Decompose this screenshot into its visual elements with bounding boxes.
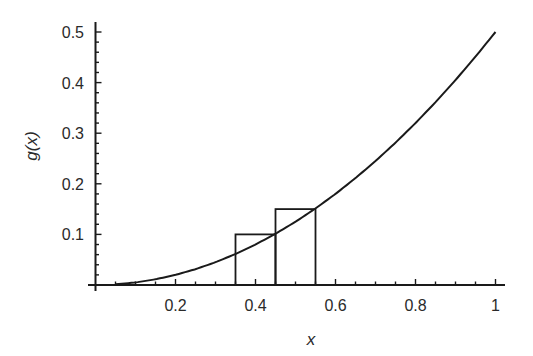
x-axis-label: x [306,330,316,349]
x-tick-label: 0.4 [244,297,266,314]
riemann-rectangles [236,209,316,285]
y-tick-label: 0.3 [62,125,84,142]
approximation-rectangle [276,209,316,285]
approximation-rectangle [236,234,276,285]
y-tick-label: 0.1 [62,226,84,243]
x-tick-label: 0.6 [324,297,346,314]
tick-labels: 0.20.40.60.810.10.20.30.40.5 [62,24,500,314]
x-tick-label: 0.2 [164,297,186,314]
chart-plot: 0.20.40.60.810.10.20.30.40.5 x g(x) [0,0,533,356]
y-tick-label: 0.5 [62,24,84,41]
x-tick-label: 1 [491,297,500,314]
y-tick-label: 0.2 [62,176,84,193]
y-tick-label: 0.4 [62,75,84,92]
y-axis-label: g(x) [22,131,41,160]
axes [88,22,505,291]
x-tick-label: 0.8 [404,297,426,314]
g-curve [116,32,496,284]
